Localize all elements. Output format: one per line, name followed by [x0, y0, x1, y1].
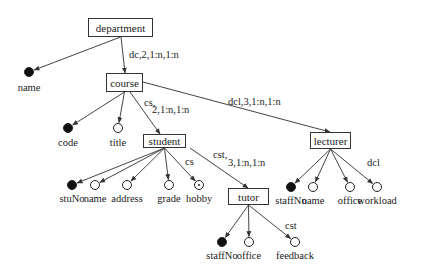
attribute-node-student-address — [122, 180, 132, 190]
key-attribute-node-lecturer-staffNo — [286, 182, 296, 192]
entity-student: student — [143, 134, 186, 148]
attribute-node-lecturer-workload — [372, 182, 382, 192]
key-attribute-node-dept-name — [24, 67, 34, 77]
relationship-label-cst-1: cst, — [213, 149, 227, 160]
attribute-node-tutor-office — [244, 237, 254, 247]
er-diagram: departmentcoursestudentlecturertutor nam… — [0, 0, 434, 278]
attribute-node-lecturer-name — [308, 182, 318, 192]
attribute-label-course-code: code — [58, 137, 78, 148]
attribute-label-lecturer-workload: workload — [357, 195, 397, 206]
entity-lecturer: lecturer — [310, 132, 351, 149]
attribute-label-tutor-staffNo: staffNo — [206, 250, 237, 261]
edge-arrow — [119, 92, 125, 123]
edge-arrow — [225, 205, 248, 238]
key-attribute-node-student-stuNo — [67, 180, 77, 190]
entity-department: department — [88, 18, 153, 37]
attribute-label-student-address: address — [111, 193, 143, 204]
attribute-node-tutor-feedback — [290, 237, 300, 247]
attribute-label-student-stuNo: stuNo — [59, 193, 84, 204]
key-attribute-node-tutor-staffNo — [217, 237, 227, 247]
attribute-label-student-hobby: hobby — [186, 193, 212, 204]
edge-arrow — [121, 37, 125, 73]
relationship-label-cs-hobby: cs — [185, 156, 194, 167]
attribute-node-student-grade — [164, 180, 174, 190]
attribute-label-lecturer-name: name — [302, 195, 325, 206]
key-attribute-node-course-code — [63, 123, 73, 133]
attribute-label-tutor-office: office — [237, 250, 261, 261]
edge-arrow — [315, 149, 330, 182]
relationship-label-cst-2: 3,1:n,1:n — [228, 157, 265, 168]
attribute-label-student-grade: grade — [157, 193, 180, 204]
relationship-label-dcl-workload: dcl — [367, 157, 380, 168]
attribute-label-tutor-feedback: feedback — [276, 250, 314, 261]
edge-arrow — [331, 149, 348, 182]
edge-arrow — [131, 148, 165, 181]
attribute-label-course-title: title — [110, 137, 126, 148]
relationship-label-dc: dc,2,1:n,1:n — [129, 49, 179, 60]
edge-arrow — [295, 149, 331, 183]
attribute-node-student-name — [90, 180, 100, 190]
entity-tutor: tutor — [228, 188, 269, 205]
relationship-label-cs-2: 2,1:n,1:n — [152, 104, 189, 115]
edge-arrow — [100, 148, 165, 182]
edge-arrow — [77, 148, 164, 183]
relationship-label-cst-feedback: cst — [285, 220, 297, 231]
edge-arrow — [73, 92, 125, 125]
edge-arrow — [165, 148, 169, 180]
edge-arrow — [34, 37, 120, 70]
entity-course: course — [106, 73, 143, 92]
attribute-label-dept-name: name — [18, 82, 41, 93]
attribute-label-student-name: name — [84, 193, 107, 204]
attribute-node-lecturer-office — [345, 182, 355, 192]
attribute-node-student-hobby — [194, 180, 204, 190]
relationship-label-dcl: dcl,3,1:n,1:n — [228, 96, 281, 107]
attribute-node-course-title — [113, 123, 123, 133]
